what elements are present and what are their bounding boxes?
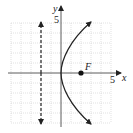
x-axis-label: x [121,72,127,83]
y-axis-label: y [52,3,58,14]
parabola-diagram: y 5 x 5 F [0,0,133,133]
focus-point [78,70,83,75]
y-tick-label: 5 [54,14,59,25]
parabola-curve-lower [61,73,91,124]
x-tick-label: 5 [110,74,115,85]
focus-label: F [84,61,92,72]
